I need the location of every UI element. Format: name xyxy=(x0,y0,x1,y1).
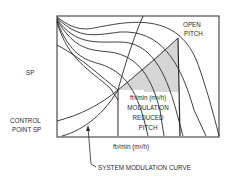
callout-arrowhead xyxy=(86,125,90,131)
control-point-label-line1: CONTROL xyxy=(10,117,41,124)
y-axis-label: SP xyxy=(26,69,34,76)
callout-label: SYSTEM MODULATION CURVE xyxy=(98,164,191,171)
callout-leader xyxy=(88,128,91,164)
callout-foot xyxy=(91,164,96,167)
shaded-label-line4: PITCH xyxy=(139,124,158,131)
shaded-label-line1: ft³/min (m³/h) xyxy=(130,94,166,102)
open-pitch-label-line1: OPEN xyxy=(183,21,201,28)
control-point-label-line2: POINT SP xyxy=(12,126,41,133)
x-axis-label: ft³/min (m³/h) xyxy=(113,143,149,151)
fan-pitch-diagram: SP OPEN PITCH CONTROL POINT SP ft³/min (… xyxy=(0,0,232,180)
shaded-label-line3: REDUCED xyxy=(132,114,164,121)
open-pitch-label-line2: PITCH xyxy=(184,30,203,37)
shaded-label-line2: MODULATION xyxy=(127,104,169,111)
